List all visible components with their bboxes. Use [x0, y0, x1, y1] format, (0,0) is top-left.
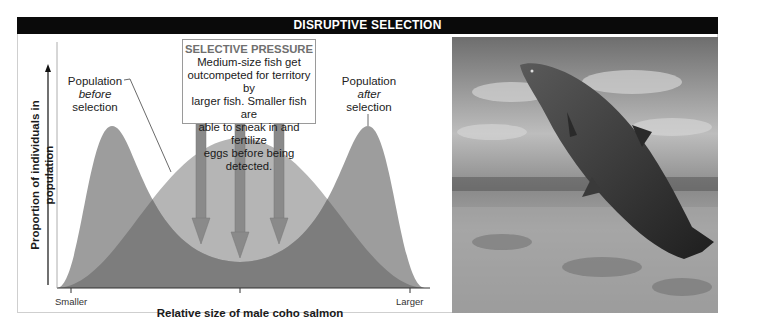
- callout-text: selection: [336, 101, 402, 114]
- callout-text: Population: [62, 75, 128, 88]
- up-arrow-icon: [45, 64, 51, 72]
- salmon-photo: [452, 37, 718, 313]
- selective-pressure-box: SELECTIVE PRESSURE Medium-size fish get …: [182, 39, 316, 124]
- callout-text: selection: [62, 101, 128, 114]
- x-tick-label-smaller: Smaller: [55, 296, 87, 307]
- disruptive-selection-diagram: Population before selection Population a…: [0, 0, 452, 334]
- pressure-line: able to sneak in and fertilize: [183, 121, 315, 147]
- pressure-line: outcompeted for territory by: [183, 69, 315, 95]
- callout-text: after: [336, 88, 402, 101]
- selective-pressure-title: SELECTIVE PRESSURE: [183, 43, 315, 56]
- before-selection-callout: Population before selection: [62, 75, 128, 114]
- y-axis-label: Proportion of individuals in population: [28, 80, 42, 270]
- callout-text: before: [62, 88, 128, 101]
- leaping-salmon-image: [452, 37, 718, 313]
- after-selection-callout: Population after selection: [336, 75, 402, 114]
- x-axis-label: Relative size of male coho salmon: [140, 307, 360, 319]
- pressure-line: Medium-size fish get: [183, 56, 315, 69]
- callout-text: Population: [336, 75, 402, 88]
- x-tick-label-larger: Larger: [396, 296, 423, 307]
- pressure-line: eggs before being detected.: [183, 147, 315, 173]
- pressure-line: larger fish. Smaller fish are: [183, 95, 315, 121]
